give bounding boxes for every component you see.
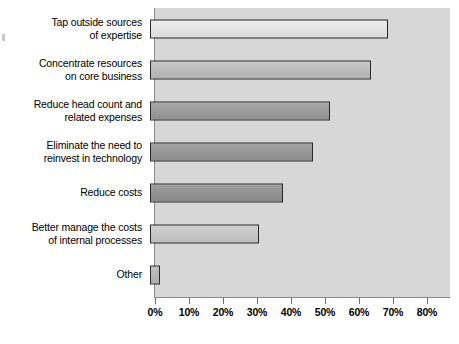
chart-row: Better manage the costs of internal proc…: [0, 213, 459, 254]
x-axis-tick: [155, 298, 156, 304]
chart-row: Tap outside sources of expertise: [0, 8, 459, 49]
chart-row: Other: [0, 254, 459, 295]
category-label: Reduce head count and related expenses: [0, 98, 150, 122]
category-label: Better manage the costs of internal proc…: [0, 221, 150, 245]
bar[interactable]: [150, 60, 371, 79]
x-axis-tick: [393, 298, 394, 304]
bar[interactable]: [150, 142, 313, 161]
x-axis-line: [155, 297, 450, 298]
x-axis-tick-label: 80%: [407, 306, 447, 318]
bar-chart: Tap outside sources of expertise Concent…: [0, 0, 459, 344]
x-axis-tick: [223, 298, 224, 304]
category-label: Concentrate resources on core business: [0, 57, 150, 81]
category-label: Tap outside sources of expertise: [0, 16, 150, 40]
category-label: Reduce costs: [0, 186, 150, 198]
bar-track: [150, 131, 459, 172]
bar[interactable]: [150, 183, 283, 202]
category-label: Other: [0, 268, 150, 280]
bar-track: [150, 90, 459, 131]
bar-track: [150, 8, 459, 49]
category-label: Eliminate the need to reinvest in techno…: [0, 139, 150, 163]
x-axis-tick: [291, 298, 292, 304]
bar-track: [150, 213, 459, 254]
x-axis-tick: [325, 298, 326, 304]
x-axis-tick: [359, 298, 360, 304]
bar-track: [150, 172, 459, 213]
bar-track: [150, 49, 459, 90]
chart-row: Reduce costs: [0, 172, 459, 213]
bar[interactable]: [150, 224, 259, 243]
chart-row: Concentrate resources on core business: [0, 49, 459, 90]
bar-track: [150, 254, 459, 295]
chart-row: Reduce head count and related expenses: [0, 90, 459, 131]
bar[interactable]: [150, 265, 160, 284]
chart-row: Eliminate the need to reinvest in techno…: [0, 131, 459, 172]
x-axis-tick: [427, 298, 428, 304]
bar[interactable]: [150, 19, 388, 38]
bar[interactable]: [150, 101, 330, 120]
x-axis-tick: [257, 298, 258, 304]
x-axis-tick: [189, 298, 190, 304]
